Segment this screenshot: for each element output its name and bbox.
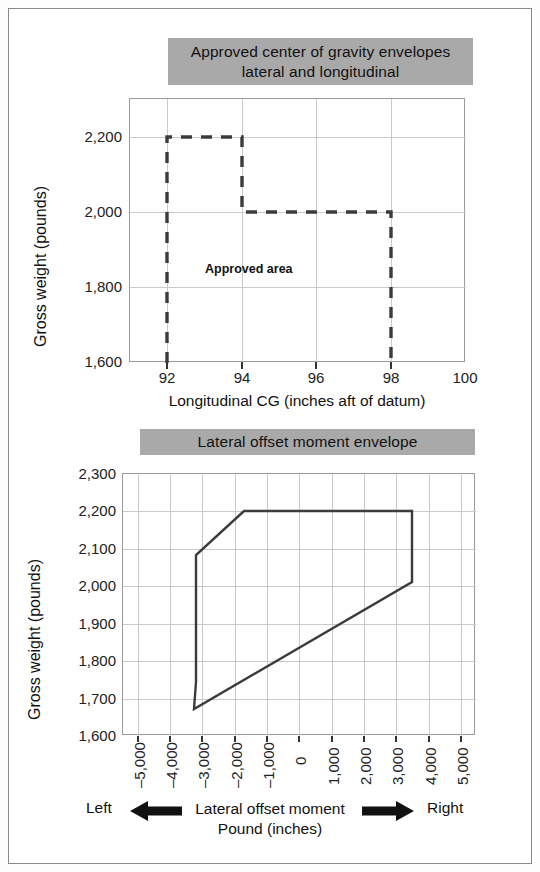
chart2-xtick-1000: 1,000 — [325, 747, 342, 785]
chart2-ytick-1900: 1,900 — [54, 615, 116, 632]
chart2-xtick-m2000: –2,000 — [228, 742, 245, 788]
chart2-xtick-m4000: –4,000 — [163, 742, 180, 788]
chart2-tick-4000 — [428, 736, 430, 742]
chart2-tick-2000 — [363, 736, 365, 742]
chart2-ytick-1600: 1,600 — [54, 727, 116, 744]
chart2-xtick-2000: 2,000 — [357, 747, 374, 785]
arrow-right-icon — [362, 800, 414, 822]
chart2-y-axis-title: Gross weight (pounds) — [26, 559, 44, 720]
chart2-tick-m3000 — [201, 736, 203, 742]
lateral-direction-legend: Left Lateral offset moment Pound (inches… — [20, 798, 520, 852]
chart2-xtick-m3000: –3,000 — [195, 742, 212, 788]
chart2-tick-5000 — [460, 736, 462, 742]
chart2-xtick-3000: 3,000 — [389, 747, 406, 785]
chart2-tick-m1000 — [266, 736, 268, 742]
chart2-envelope-path — [123, 474, 476, 736]
chart2-tick-m5000 — [137, 736, 139, 742]
chart2-tick-m2000 — [234, 736, 236, 742]
chart2-xtick-0: 0 — [292, 757, 309, 765]
legend-center-line2: Pound (inches) — [20, 819, 520, 839]
chart2-ytick-1700: 1,700 — [54, 690, 116, 707]
chart2-tick-m4000 — [169, 736, 171, 742]
chart2-xtick-m5000: –5,000 — [131, 742, 148, 788]
chart2-xtick-4000: 4,000 — [422, 747, 439, 785]
chart2-ytick-1800: 1,800 — [54, 652, 116, 669]
lateral-offset-moment-chart: Gross weight (pounds) 2,300 2,200 2,100 … — [0, 0, 540, 872]
chart2-xtick-m1000: –1,000 — [260, 742, 277, 788]
chart2-ytick-2300: 2,300 — [54, 465, 116, 482]
chart2-tick-1000 — [331, 736, 333, 742]
chart2-plot-area — [122, 473, 475, 735]
chart2-tick-3000 — [395, 736, 397, 742]
page-root: Approved center of gravity envelopes lat… — [0, 0, 540, 872]
chart2-xtick-5000: 5,000 — [454, 747, 471, 785]
chart2-ytick-2100: 2,100 — [54, 540, 116, 557]
chart2-tick-0 — [298, 736, 300, 742]
chart2-ytick-2000: 2,000 — [54, 577, 116, 594]
chart2-ytick-2200: 2,200 — [54, 502, 116, 519]
legend-right-label: Right — [427, 799, 463, 817]
